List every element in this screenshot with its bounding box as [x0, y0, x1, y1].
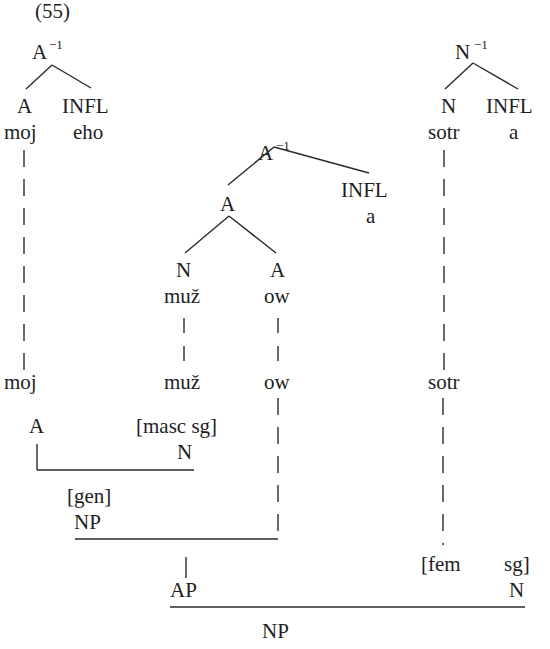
lower-final-np: NP	[262, 619, 289, 643]
branch-line	[185, 216, 229, 253]
stem-moj: moj	[4, 370, 37, 394]
tree-sotr-root-label: N	[455, 40, 470, 64]
tree-sotr-child-n-form: sotr	[428, 120, 460, 144]
tree-sotr-child-infl-label: INFL	[486, 94, 533, 118]
tree-muz-child-n-form: muž	[164, 284, 200, 308]
tree-muz-child-a-form: ow	[264, 284, 291, 308]
example-number: (55)	[35, 0, 70, 23]
tree-muz-inner-a-label: A	[220, 192, 236, 216]
tree-moj-child-infl-form: eho	[73, 120, 103, 144]
branch-line	[229, 216, 276, 253]
lower-sotr-feature-fem: [fem	[421, 552, 461, 576]
tree-muz-child-n-label: N	[176, 258, 191, 282]
tree-sotr-child-n-label: N	[441, 94, 456, 118]
tree-moj-child-a-form: moj	[4, 120, 37, 144]
stem-muz: muž	[164, 370, 200, 394]
tree-moj-child-a-label: A	[17, 94, 33, 118]
tree-sotr-child-infl-form: a	[509, 120, 519, 144]
lower-sotr-feature-sg: sg]	[504, 552, 530, 576]
tree-muz-child-a-label: A	[270, 258, 286, 282]
branch-line	[228, 147, 274, 185]
tree-moj-root-superscript: −1	[49, 37, 63, 52]
branch-line	[52, 65, 91, 88]
branch-line	[26, 65, 52, 89]
tree-moj: A −1 A INFL moj eho	[4, 37, 109, 144]
tree-muz-infl-label: INFL	[341, 178, 388, 202]
lower-muz-category: N	[177, 440, 192, 464]
tree-moj-child-infl-label: INFL	[62, 94, 109, 118]
lower-moj-category: A	[29, 414, 45, 438]
syntax-tree-diagram: (55) A −1 A INFL moj eho N −1 N INFL sot…	[0, 0, 550, 649]
stem-sotr: sotr	[428, 370, 460, 394]
branch-line	[445, 63, 473, 89]
tree-sotr-root-superscript: −1	[474, 37, 488, 52]
stem-ow: ow	[264, 370, 291, 394]
branch-line	[473, 63, 518, 89]
lower-gen-feature: [gen]	[67, 484, 111, 508]
branch-line	[274, 147, 369, 173]
lower-sotr-category: N	[509, 578, 524, 602]
tree-muz-infl-form: a	[366, 204, 376, 228]
tree-muz: A −1 INFL a A N A muž ow	[164, 138, 388, 308]
lower-gen-np: NP	[74, 510, 101, 534]
tree-moj-root-label: A	[32, 40, 48, 64]
lower-muz-features: [masc sg]	[136, 414, 217, 438]
lower-ap: AP	[170, 578, 197, 602]
tree-sotr: N −1 N INFL sotr a	[428, 37, 533, 144]
